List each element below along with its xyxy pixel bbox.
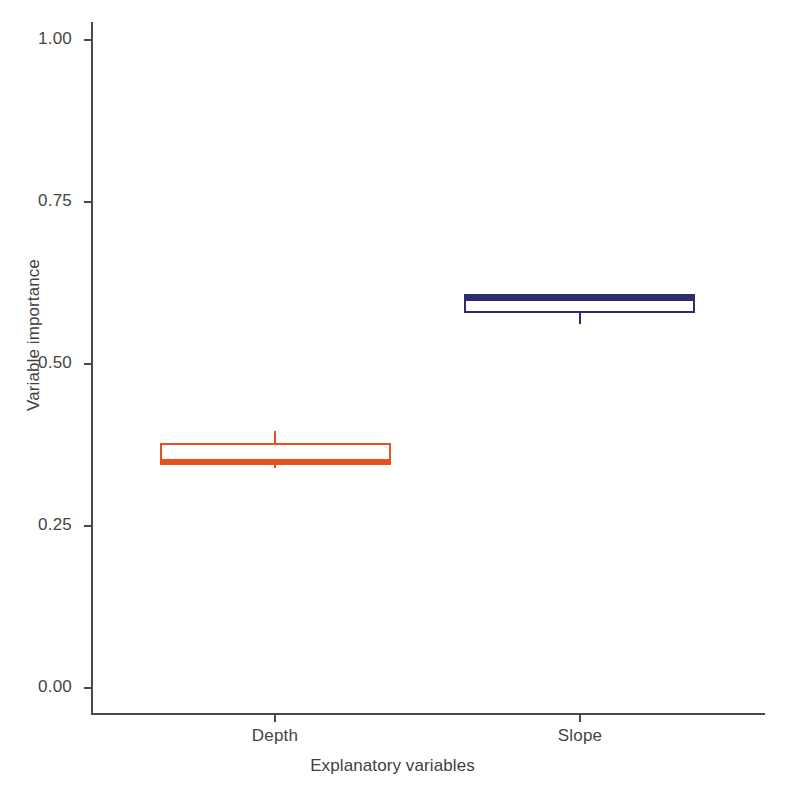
- x-tick-label-depth: Depth: [195, 726, 355, 746]
- y-axis-title: Variable importance: [24, 225, 44, 445]
- y-axis-line: [91, 22, 93, 714]
- x-tick-mark-slope: [579, 714, 581, 722]
- boxplot-figure: Variable importance 1.00 0.75 0.50 0.25 …: [0, 0, 785, 800]
- x-axis-title: Explanatory variables: [0, 756, 785, 776]
- y-tick-label-0.25: 0.25: [2, 515, 72, 535]
- y-tick-mark-0.75: [84, 201, 92, 203]
- y-tick-mark-1.00: [84, 39, 92, 41]
- x-axis-line: [91, 713, 765, 715]
- y-tick-label-1.00: 1.00: [2, 29, 72, 49]
- y-tick-label-0.50: 0.50: [2, 353, 72, 373]
- y-tick-label-0.00: 0.00: [2, 677, 72, 697]
- slope-box: [464, 294, 695, 313]
- x-tick-label-slope: Slope: [500, 726, 660, 746]
- y-tick-label-0.75: 0.75: [2, 191, 72, 211]
- y-tick-mark-0.50: [84, 363, 92, 365]
- x-tick-mark-depth: [274, 714, 276, 722]
- y-tick-mark-0.00: [84, 687, 92, 689]
- slope-lower-whisker: [579, 312, 581, 324]
- depth-lower-whisker: [274, 464, 276, 468]
- y-tick-mark-0.25: [84, 525, 92, 527]
